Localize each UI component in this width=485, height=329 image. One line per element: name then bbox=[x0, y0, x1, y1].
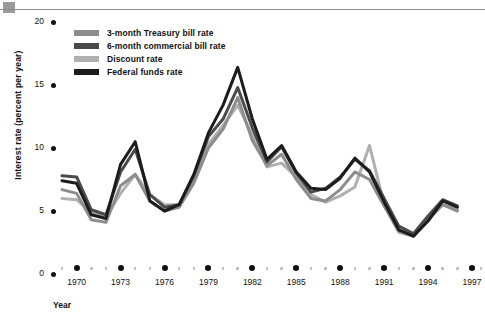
y-axis-tick-label: 15 bbox=[18, 79, 44, 89]
x-axis-minor-tick-dot bbox=[61, 267, 64, 270]
x-axis-minor-tick-dot bbox=[441, 267, 444, 270]
corner-square-decoration bbox=[3, 2, 15, 13]
y-axis-tick-label: 0 bbox=[18, 268, 44, 278]
legend-swatch-icon bbox=[74, 43, 99, 49]
x-axis-tick-label: 1988 bbox=[320, 277, 360, 287]
x-axis-tick-label: 1985 bbox=[276, 277, 316, 287]
x-axis-minor-tick-dot bbox=[354, 267, 357, 270]
chart-legend: 3-month Treasury bill rate6-month commer… bbox=[74, 27, 226, 79]
legend-item-label: 6-month commercial bill rate bbox=[107, 41, 226, 51]
x-axis-minor-tick-dot bbox=[280, 267, 283, 270]
x-axis-minor-tick-dot bbox=[398, 267, 401, 270]
x-axis-minor-tick-dot bbox=[236, 267, 239, 270]
x-axis-minor-tick-dot bbox=[90, 267, 93, 270]
x-axis-major-tick-dot bbox=[469, 265, 475, 271]
x-axis-tick-label: 1994 bbox=[408, 277, 448, 287]
y-axis-tick-label: 10 bbox=[18, 142, 44, 152]
x-axis-minor-tick-dot bbox=[456, 267, 459, 270]
x-axis-major-tick-dot bbox=[118, 265, 124, 271]
legend-item: 6-month commercial bill rate bbox=[74, 40, 226, 52]
x-axis-minor-tick-dot bbox=[193, 267, 196, 270]
x-axis-title: Year bbox=[53, 300, 71, 310]
legend-item-label: 3-month Treasury bill rate bbox=[107, 28, 214, 38]
y-axis-tick-dot bbox=[51, 209, 56, 214]
x-axis-minor-tick-dot bbox=[412, 267, 415, 270]
legend-item-label: Federal funds rate bbox=[107, 67, 183, 77]
x-axis-minor-tick-dot bbox=[324, 267, 327, 270]
legend-item: 3-month Treasury bill rate bbox=[74, 27, 226, 39]
x-axis-minor-tick-dot bbox=[105, 267, 108, 270]
y-axis-tick-dot bbox=[51, 272, 56, 277]
y-axis-tick-dot bbox=[51, 146, 56, 151]
legend-item: Federal funds rate bbox=[74, 66, 226, 78]
x-axis-tick-label: 1991 bbox=[364, 277, 404, 287]
x-axis-minor-tick-dot bbox=[222, 267, 225, 270]
figure-chart-interest-rates: Interest rate (percent per year) 0510152… bbox=[0, 0, 485, 329]
y-axis-tick-label: 5 bbox=[18, 205, 44, 215]
legend-swatch-icon bbox=[74, 69, 99, 75]
legend-item-label: Discount rate bbox=[107, 54, 163, 64]
legend-item: Discount rate bbox=[74, 53, 226, 65]
y-axis-tick-dot bbox=[51, 20, 56, 25]
x-axis-tick-label: 1982 bbox=[232, 277, 272, 287]
x-axis-major-tick-dot bbox=[74, 265, 80, 271]
x-axis-tick-label: 1979 bbox=[188, 277, 228, 287]
y-axis-title: Interest rate (percent per year) bbox=[13, 35, 23, 195]
x-axis-minor-tick-dot bbox=[368, 267, 371, 270]
x-axis-tick-label: 1997 bbox=[452, 277, 485, 287]
x-axis-minor-tick-dot bbox=[480, 267, 483, 270]
y-axis-tick-label: 20 bbox=[18, 16, 44, 26]
x-axis-tick-label: 1976 bbox=[145, 277, 185, 287]
x-axis-tick-label: 1973 bbox=[101, 277, 141, 287]
legend-swatch-icon bbox=[74, 56, 99, 62]
x-axis-major-tick-dot bbox=[162, 265, 168, 271]
x-axis-minor-tick-dot bbox=[149, 267, 152, 270]
y-axis-tick-dot bbox=[51, 83, 56, 88]
top-horizontal-rule bbox=[0, 9, 485, 10]
legend-swatch-icon bbox=[74, 30, 99, 36]
x-axis-minor-tick-dot bbox=[266, 267, 269, 270]
x-axis-tick-label: 1970 bbox=[57, 277, 97, 287]
x-axis-minor-tick-dot bbox=[310, 267, 313, 270]
